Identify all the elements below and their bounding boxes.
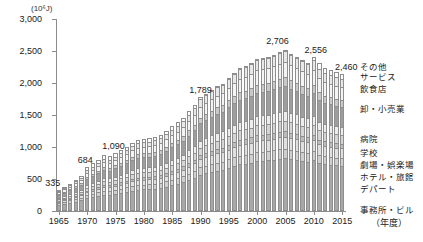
- bar-2014: [334, 72, 338, 211]
- bar-segment: [199, 99, 201, 106]
- bar-1970: [85, 167, 89, 211]
- bar-segment: [216, 171, 218, 210]
- bar-segment: [324, 132, 326, 141]
- bar-segment: [103, 170, 105, 178]
- bar-segment: [290, 138, 292, 150]
- bar-segment: [245, 91, 247, 99]
- bar-segment: [296, 58, 298, 68]
- bar-segment: [216, 133, 218, 141]
- bar-segment: [313, 160, 315, 210]
- y-axis-tick-label: 1,500: [19, 110, 42, 120]
- bar-2001: [261, 58, 265, 211]
- bar-segment: [245, 77, 247, 91]
- bar-segment: [250, 96, 252, 119]
- bar-segment: [318, 69, 320, 78]
- bar-segment: [335, 106, 337, 126]
- bar-segment: [182, 127, 184, 136]
- bar-segment: [341, 100, 343, 107]
- bar-1979: [136, 140, 140, 211]
- bar-segment: [279, 64, 281, 79]
- x-axis-tick-label: 1995: [219, 216, 239, 226]
- x-axis-tick: [172, 212, 173, 215]
- bar-segment: [330, 125, 332, 133]
- bar-segment: [330, 75, 332, 84]
- bar-segment: [290, 89, 292, 113]
- bar-segment: [290, 113, 292, 123]
- bar-segment: [273, 89, 275, 113]
- bar-segment: [194, 130, 196, 146]
- bar-1976: [119, 150, 123, 211]
- bar-segment: [216, 114, 218, 133]
- bar-segment: [245, 67, 247, 77]
- bar-segment: [160, 143, 162, 150]
- bar-segment: [222, 162, 224, 170]
- x-axis-tick-label: 1985: [162, 216, 182, 226]
- bar-segment: [143, 157, 145, 168]
- legend-item-9: 事務所・ビル: [360, 205, 414, 215]
- chart-container: (10⁶J) 05001,0001,5002,0002,5003,000 196…: [0, 0, 423, 242]
- bar-segment: [194, 178, 196, 210]
- bar-segment: [216, 153, 218, 162]
- bar-segment: [324, 146, 326, 156]
- data-label-1990: 1,789: [189, 85, 212, 95]
- bar-segment: [296, 124, 298, 134]
- legend-item-1: サービス: [360, 72, 396, 82]
- bar-segment: [284, 137, 286, 149]
- bar-segment: [296, 83, 298, 91]
- bar-1997: [238, 68, 242, 211]
- bar-1994: [221, 84, 225, 211]
- bar-2005: [283, 50, 287, 211]
- bar-segment: [341, 135, 343, 144]
- bar-1965: [57, 190, 61, 211]
- bar-segment: [324, 73, 326, 82]
- bar-segment: [290, 150, 292, 159]
- bar-2010: [312, 57, 316, 211]
- bar-segment: [318, 78, 320, 92]
- bar-segment: [307, 127, 309, 137]
- bar-segment: [341, 158, 343, 166]
- bar-2008: [300, 60, 304, 211]
- x-axis-tick-label: 1965: [49, 216, 69, 226]
- bar-segment: [97, 173, 99, 180]
- legend-item-4: 病院: [360, 134, 378, 144]
- bar-segment: [239, 130, 241, 139]
- bar-segment: [120, 193, 122, 210]
- bar-segment: [262, 59, 264, 69]
- bar-segment: [148, 157, 150, 168]
- bar-segment: [301, 152, 303, 161]
- x-axis-tick: [342, 212, 343, 215]
- bar-segment: [233, 147, 235, 157]
- x-axis-tick-label: 2000: [247, 216, 267, 226]
- bar-segment: [211, 135, 213, 142]
- bar-segment: [69, 203, 71, 210]
- bar-1974: [108, 156, 112, 211]
- bar-segment: [335, 148, 337, 158]
- x-axis-tick-label: 2015: [332, 216, 352, 226]
- bar-segment: [222, 170, 224, 210]
- bar-2004: [278, 52, 282, 211]
- bar-segment: [228, 88, 230, 101]
- bar-segment: [330, 147, 332, 157]
- bar-segment: [256, 152, 258, 161]
- y-axis-tick-label: 2,000: [19, 78, 42, 88]
- bar-segment: [228, 136, 230, 145]
- bar-segment: [211, 164, 213, 172]
- bar-segment: [290, 159, 292, 210]
- bar-segment: [301, 126, 303, 136]
- bar-1967: [68, 184, 72, 211]
- bar-segment: [199, 141, 201, 148]
- bar-segment: [233, 125, 235, 134]
- bar-segment: [290, 122, 292, 132]
- bar-segment: [256, 161, 258, 210]
- bar-segment: [307, 74, 309, 88]
- bar-1990: [198, 97, 202, 211]
- bar-1980: [142, 139, 146, 211]
- x-axis-tick-label: 1970: [77, 216, 97, 226]
- bar-segment: [211, 99, 213, 111]
- bar-segment: [171, 135, 173, 143]
- bar-1998: [244, 66, 248, 211]
- bar-segment: [182, 182, 184, 210]
- bar-1985: [170, 126, 174, 211]
- legend-item-7: ホテル・旅館: [360, 172, 414, 182]
- bar-segment: [341, 79, 343, 88]
